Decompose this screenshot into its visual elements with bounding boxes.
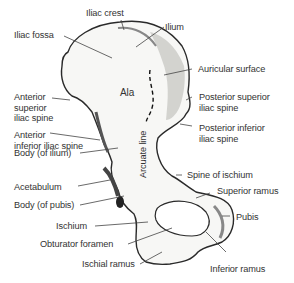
label-ischial-ramus: Ischial ramus [82,259,135,270]
label-body-of-pubis: Body (of pubis) [14,200,74,211]
label-posterior-superior-iliac-spine: Posterior superior iliac spine [199,92,270,113]
acetabulum-notch [116,196,124,208]
label-auricular-surface: Auricular surface [198,64,265,75]
label-iliac-fossa: Iliac fossa [14,30,54,41]
label-superior-ramus: Superior ramus [217,186,278,197]
label-ilium: Ilium [165,22,184,33]
label-body-of-ilium: Body (of ilium) [14,148,71,159]
label-obturator-foramen: Obturator foramen [40,239,113,250]
label-pubis: Pubis [236,212,258,223]
label-anterior-superior-iliac-spine: Anterior superior iliac spine [14,92,53,124]
label-inferior-ramus: Inferior ramus [210,264,265,275]
label-ischium: Ischium [56,221,87,232]
label-iliac-crest: Iliac crest [86,8,124,19]
label-spine-of-ischium: Spine of ischium [187,170,253,181]
label-acetabulum: Acetabulum [14,182,62,193]
label-arcuate-line: Arcuate line [138,131,149,178]
hip-bone-diagram: Iliac crest Ilium Iliac fossa Auricular … [0,0,294,283]
label-ala: Ala [120,88,134,99]
label-posterior-inferior-iliac-spine: Posterior inferior iliac spine [199,123,265,144]
